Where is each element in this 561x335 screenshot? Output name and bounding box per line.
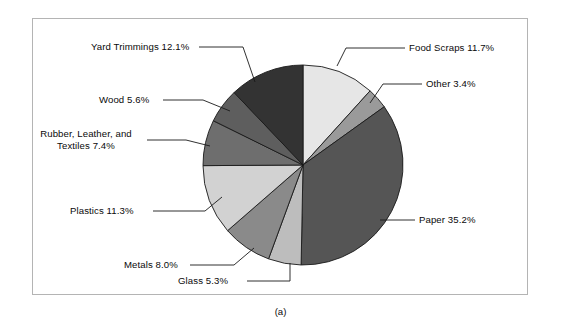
- pie-label-plastics: Plastics 11.3%: [70, 205, 134, 217]
- pie-label-rubber-line2: Textiles 7.4%: [57, 140, 115, 151]
- pie-label-paper: Paper 35.2%: [419, 214, 476, 226]
- chart-frame: [32, 18, 528, 295]
- figure-root: Food Scraps 11.7% Other 3.4% Paper 35.2%…: [0, 0, 561, 335]
- pie-label-glass: Glass 5.3%: [178, 275, 228, 287]
- pie-label-yard-trimmings: Yard Trimmings 12.1%: [91, 41, 189, 53]
- pie-label-wood: Wood 5.6%: [99, 94, 149, 106]
- pie-label-other: Other 3.4%: [426, 78, 476, 90]
- pie-label-rubber-leather-textiles: Rubber, Leather, and Textiles 7.4%: [30, 128, 142, 151]
- pie-label-metals: Metals 8.0%: [124, 259, 178, 271]
- pie-label-rubber-line1: Rubber, Leather, and: [40, 128, 132, 139]
- figure-caption: (a): [0, 306, 561, 317]
- pie-label-food-scraps: Food Scraps 11.7%: [409, 42, 494, 54]
